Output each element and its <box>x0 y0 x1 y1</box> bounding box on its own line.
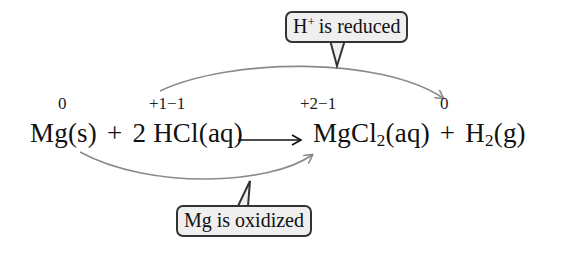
reactant-hcl: HCl(aq) <box>153 118 243 148</box>
product-mgcl2-base: MgCl <box>313 118 377 148</box>
product-h2-state: (g) <box>494 118 526 148</box>
oxidation-number-h2: 0 <box>440 94 449 114</box>
reactant-mg: Mg(s) <box>30 118 97 148</box>
redox-diagram: 0 +1−1 +2−1 0 Mg(s)+2HCl(aq)MgCl2(aq)+H2… <box>0 0 566 253</box>
callout-oxidized: Mg is oxidized <box>176 205 312 237</box>
reaction-arrow-space <box>245 126 311 146</box>
product-mgcl2-state: (aq) <box>386 118 430 148</box>
oxidation-number-hcl: +1−1 <box>149 94 185 114</box>
product-h2: H2(g) <box>465 118 526 148</box>
callout-tail-oxidized <box>238 181 250 206</box>
oxidation-number-mgcl2: +2−1 <box>300 94 336 114</box>
callout-reduced-ion: H <box>293 15 307 37</box>
product-h2-base: H <box>465 118 485 148</box>
plus-sign: + <box>107 118 122 148</box>
oxidation-number-mg: 0 <box>58 94 67 114</box>
callout-reduced: H+is reduced <box>285 11 408 43</box>
callout-oxidized-text: Mg is oxidized <box>184 209 304 231</box>
product-h2-subscript: 2 <box>485 131 494 150</box>
callout-reduced-charge: + <box>307 14 314 29</box>
coefficient: 2 <box>132 118 146 148</box>
product-mgcl2: MgCl2(aq) <box>313 118 430 148</box>
callout-reduced-text: is reduced <box>319 15 401 37</box>
plus-sign: + <box>440 118 455 148</box>
callout-tail-reduced <box>330 40 345 66</box>
product-mgcl2-subscript: 2 <box>377 131 386 150</box>
chemical-equation: Mg(s)+2HCl(aq)MgCl2(aq)+H2(g) <box>30 118 526 149</box>
oxidation-arrow <box>80 152 312 179</box>
